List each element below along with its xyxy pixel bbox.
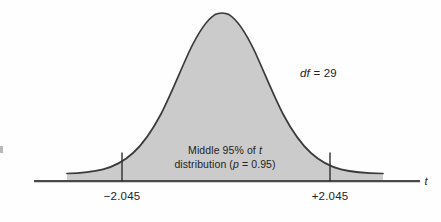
- tick-label-left: −2.045: [104, 190, 141, 202]
- df-value: 29: [324, 67, 337, 79]
- annotation-line-2: distribution (p = 0.95): [174, 158, 275, 170]
- scan-edge-artifact: [0, 146, 3, 153]
- tick-label-right: +2.045: [312, 190, 349, 202]
- df-equals: =: [310, 67, 324, 79]
- annotation-line2-italic-p: p: [232, 158, 239, 170]
- t-distribution-chart: −2.045 +2.045 t df = 29 Middle 95% of t …: [0, 0, 441, 222]
- degrees-of-freedom-label: df = 29: [300, 67, 337, 79]
- annotation-line-1: Middle 95% of t: [188, 144, 263, 156]
- annotation-line1-prefix: Middle 95% of: [188, 144, 259, 156]
- annotation-line2-prefix: distribution (: [174, 158, 233, 170]
- annotation-line2-suffix: = 0.95): [239, 158, 276, 170]
